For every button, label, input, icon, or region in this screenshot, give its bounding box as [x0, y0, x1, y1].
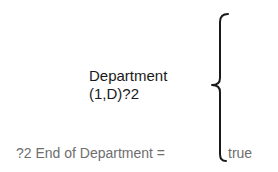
group-label: Department (1,D)?2	[89, 67, 167, 103]
group-repetition: (1,D)?2	[89, 85, 167, 103]
end-condition-label: ?2 End of Department =	[16, 145, 165, 161]
left-brace-icon	[205, 8, 235, 168]
end-condition-value: true	[228, 145, 252, 161]
group-name: Department	[89, 67, 167, 85]
